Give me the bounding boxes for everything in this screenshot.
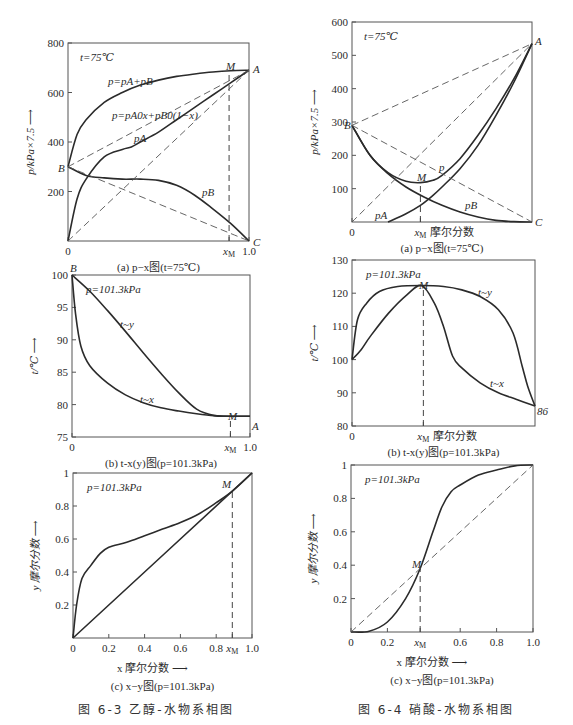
x-tick-label: 0.8 (490, 636, 504, 648)
y-tick-label: 0.6 (333, 526, 347, 538)
point-label-6-4a: pB (464, 199, 478, 211)
point-label-6-4b: t~y (478, 286, 492, 298)
y-tick-label: 80 (57, 399, 69, 411)
y-tick-label: 1 (342, 459, 348, 471)
y-tick-label: 0.8 (333, 492, 347, 504)
y-tick-label: 400 (332, 83, 349, 95)
point-label-6-4a: C (535, 216, 543, 228)
chart-6-4c: 0.20.40.60.8100.2xM0.60.81.0y 摩尔分数 ⟶p=10… (307, 459, 540, 687)
point-label-6-3b: M (227, 410, 238, 422)
x-tick-label: 0.6 (453, 636, 467, 648)
condition-annotation: t=75℃ (364, 30, 398, 42)
y-tick-label: 120 (332, 287, 349, 299)
condition-annotation: p=101.3kPa (86, 481, 142, 493)
figure-caption-6-3: 图 6-3 乙醇-水物系相图 (78, 700, 234, 717)
plot-frame (352, 260, 535, 426)
point-label-6-3b: t~x (140, 393, 154, 405)
x-tick-label: 0.6 (174, 642, 188, 654)
y-tick-label: 0.4 (55, 566, 69, 578)
point-label-6-4b: t~x (490, 377, 504, 389)
point-label-6-3b: B (70, 262, 77, 274)
point-label-6-3a: pB (201, 186, 215, 198)
x-tick-label: 0 (349, 226, 355, 238)
y-axis-label: y 摩尔分数 ⟶ (29, 520, 41, 591)
y-tick-label: 0.8 (55, 500, 69, 512)
point-label-6-3a: B (58, 162, 65, 174)
point-label-6-3b: A (251, 420, 259, 432)
series-ideal-p (352, 44, 532, 126)
chart-6-4a: 1002003004005006000xMp/kPa×7.5 ⟶t=75℃摩尔分… (308, 16, 532, 255)
x-tick-label: 0 (348, 636, 354, 648)
y-tick-label: 0.6 (55, 533, 69, 545)
plot-frame (352, 22, 532, 222)
x-tick-label: 0.8 (209, 642, 223, 654)
y-tick-label: 75 (57, 431, 69, 443)
x-tick-label: xM (223, 441, 236, 455)
series-t-x (72, 275, 250, 416)
y-axis-label: y 摩尔分数 ⟶ (307, 513, 319, 584)
series-ideal-pb (352, 125, 532, 222)
point-label-6-3b: t~y (120, 318, 134, 330)
y-tick-label: 200 (48, 186, 65, 198)
y-tick-label: 500 (332, 49, 349, 61)
x-tick-label: xM (413, 636, 426, 650)
x-tick-label: 1.0 (245, 642, 259, 654)
x-axis-label: x 摩尔分数 ⟶ (397, 655, 468, 668)
x-tick-label: 1.0 (243, 441, 257, 453)
series-diagonal (73, 473, 252, 638)
figure-caption-6-4: 图 6-4 硝酸-水物系相图 (358, 700, 514, 717)
y-tick-label: 100 (332, 183, 349, 195)
x-axis-label: 摩尔分数 (430, 225, 474, 238)
x-tick-label: xM (222, 245, 235, 259)
x-tick-label: 0 (69, 441, 75, 453)
x-tick-label: 0.2 (102, 642, 116, 654)
point-label-6-4c: M (411, 558, 422, 570)
point-label-6-4a: pA (374, 209, 388, 221)
series-diagonal (351, 465, 533, 632)
y-tick-label: 600 (332, 16, 349, 28)
x-tick-label: xM (416, 430, 429, 444)
chart-subtitle: (c) x−y图(p=101.3kPa) (111, 680, 215, 693)
x-tick-label: 0.2 (381, 636, 395, 648)
chart-subtitle: (b) t-x(y)图(p=101.3kPa) (105, 457, 217, 470)
point-label-6-4b: M (418, 279, 429, 291)
x-tick-label: 0 (349, 430, 355, 442)
point-label-6-4b: 86 (537, 405, 549, 417)
condition-annotation: p=101.3kPa (85, 283, 141, 295)
y-axis-label: p/kPa×7.5 ⟶ (308, 89, 320, 156)
phase-diagram-canvas: 2004006008000xM1.0p/kPa×7.5 ⟶t=75℃(a) p−… (0, 0, 573, 725)
y-tick-label: 400 (48, 136, 65, 148)
y-tick-label: 95 (57, 301, 69, 313)
y-tick-label: 800 (48, 37, 65, 49)
y-tick-label: 90 (337, 387, 349, 399)
point-label-6-3a: A (252, 63, 260, 75)
x-tick-label: xM (413, 226, 426, 240)
chart-6-3c: 0.20.40.60.8100.20.40.60.8xM1.0y 摩尔分数 ⟶p… (29, 467, 259, 693)
condition-annotation: t=75℃ (80, 51, 114, 63)
series-t-y (72, 275, 250, 416)
x-tick-label: 0.4 (138, 642, 152, 654)
point-label-6-3a: p=pA+pB (107, 75, 153, 87)
chart-subtitle: (a) p−x图(t=75℃) (400, 242, 483, 255)
point-label-6-3a: pA (133, 132, 147, 144)
chart-subtitle: (c) x−y图(p=101.3kPa) (390, 674, 494, 687)
y-tick-label: 600 (48, 87, 65, 99)
y-tick-label: 130 (332, 254, 349, 266)
y-tick-label: 85 (57, 366, 69, 378)
y-tick-label: 0.2 (333, 593, 347, 605)
y-tick-label: 0.4 (333, 559, 347, 571)
series-ideal-pb (68, 167, 249, 241)
point-label-6-4a: B (344, 119, 351, 131)
y-axis-label: t/℃ ⟶ (308, 324, 320, 361)
y-tick-label: 90 (57, 334, 69, 346)
x-tick-label: 0 (70, 642, 76, 654)
point-label-6-3a: M (225, 60, 236, 72)
series-ideal-pa (352, 44, 532, 222)
x-axis-label: x 摩尔分数 ⟶ (117, 661, 188, 674)
series-t-y (352, 286, 535, 407)
x-axis-label: 摩尔分数 (433, 429, 477, 442)
x-tick-label: xM (225, 642, 238, 656)
series-pa (388, 44, 532, 222)
y-axis-label: t/℃ ⟶ (28, 337, 40, 374)
plot-frame (72, 275, 250, 437)
